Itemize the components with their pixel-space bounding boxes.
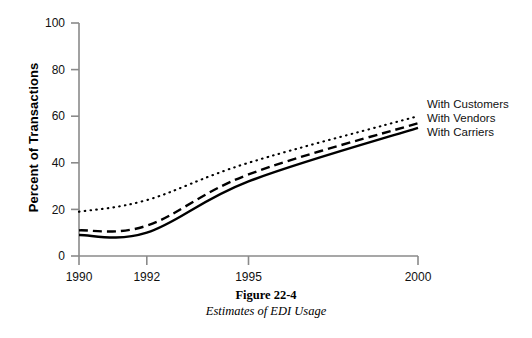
figure-caption-title: Figure 22-4 (0, 288, 532, 303)
x-tick-label-2000: 2000 (405, 270, 432, 284)
y-tick-label-60: 60 (52, 109, 66, 123)
y-tick-label-20: 20 (52, 203, 66, 217)
x-tick-label-1990: 1990 (66, 270, 93, 284)
legend-entry-with-vendors: With Vendors (427, 111, 532, 125)
x-tick-label-1995: 1995 (235, 270, 262, 284)
y-tick-label-40: 40 (52, 156, 66, 170)
y-tick-label-100: 100 (45, 16, 65, 30)
series-line-with-vendors (79, 123, 418, 231)
legend-entry-with-customers: With Customers (427, 97, 532, 111)
series-line-with-carriers (79, 128, 418, 238)
legend-entry-with-carriers: With Carriers (427, 125, 532, 139)
series-line-with-customers (79, 116, 418, 212)
y-tick-label-0: 0 (58, 249, 65, 263)
figure-caption-subtitle: Estimates of EDI Usage (0, 303, 532, 319)
figure-caption: Figure 22-4 Estimates of EDI Usage (0, 288, 532, 319)
x-tick-label-1992: 1992 (133, 270, 160, 284)
chart-legend: With Customers With Vendors With Carrier… (427, 97, 532, 140)
figure-container: Percent of Transactions 100 80 60 40 20 … (0, 0, 532, 338)
y-tick-label-80: 80 (52, 63, 66, 77)
